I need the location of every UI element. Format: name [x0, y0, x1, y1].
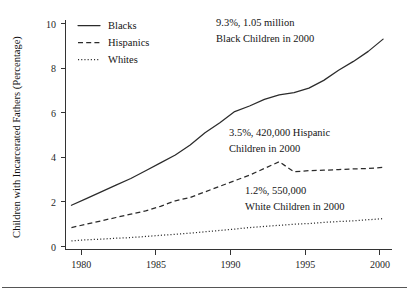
y-tick-label-10: 10: [46, 19, 56, 30]
annotation-hispanics-line2: Children in 2000: [229, 143, 300, 154]
legend-label-blacks: Blacks: [108, 20, 137, 31]
annotation-whites-line1: 1.2%, 550,000: [245, 185, 306, 196]
legend-label-hispanics: Hispanics: [108, 37, 149, 48]
x-tick-label-1980: 1980: [71, 259, 91, 270]
y-tick-label-2: 2: [51, 197, 56, 208]
x-tick-label-1990: 1990: [221, 259, 241, 270]
legend: Blacks Hispanics Whites: [78, 20, 149, 65]
y-tick-label-6: 6: [51, 108, 56, 119]
annotation-blacks: 9.3%, 1.05 million Black Children in 200…: [216, 17, 314, 44]
x-tick-label-1995: 1995: [295, 259, 315, 270]
legend-label-whites: Whites: [108, 54, 138, 65]
annotation-whites-line2: White Children in 2000: [245, 201, 344, 212]
x-axis-ticks: [81, 250, 380, 256]
chart-page: Children with Incarcerated Fathers (Perc…: [0, 0, 409, 294]
y-tick-label-4: 4: [51, 152, 56, 163]
series-line-whites: [71, 219, 383, 241]
annotation-blacks-line2: Black Children in 2000: [216, 33, 314, 44]
annotation-blacks-line1: 9.3%, 1.05 million: [216, 17, 295, 28]
x-tick-label-1985: 1985: [146, 259, 166, 270]
annotation-hispanics-line1: 3.5%, 420,000 Hispanic: [229, 127, 331, 138]
y-tick-label-0: 0: [51, 242, 56, 253]
line-chart: Children with Incarcerated Fathers (Perc…: [0, 0, 409, 294]
y-axis-title: Children with Incarcerated Fathers (Perc…: [11, 36, 23, 238]
annotation-hispanics: 3.5%, 420,000 Hispanic Children in 2000: [229, 127, 331, 154]
x-tick-label-2000: 2000: [370, 259, 390, 270]
annotation-whites: 1.2%, 550,000 White Children in 2000: [245, 185, 344, 212]
y-axis-ticks: [61, 24, 66, 247]
series-line-hispanics: [71, 162, 383, 228]
y-tick-label-8: 8: [51, 63, 56, 74]
